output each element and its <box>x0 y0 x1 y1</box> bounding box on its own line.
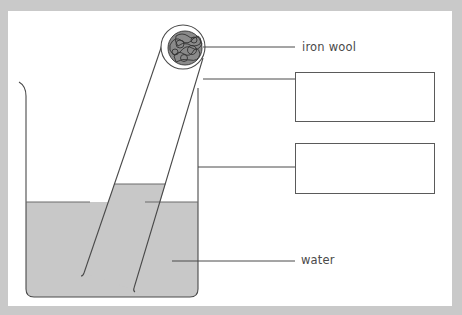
iron-wool-icon <box>168 31 202 65</box>
answer-box-1[interactable] <box>295 72 435 122</box>
label-water: water <box>301 253 335 267</box>
answer-box-2[interactable] <box>295 143 435 194</box>
label-iron-wool: iron wool <box>302 40 356 54</box>
